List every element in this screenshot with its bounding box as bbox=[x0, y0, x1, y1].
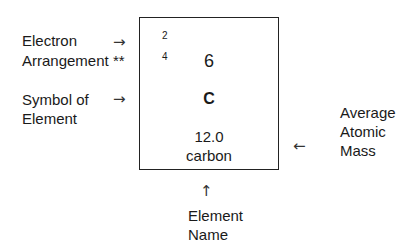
element-name: carbon bbox=[140, 146, 278, 165]
symbol-label-line2: Element bbox=[22, 109, 77, 128]
mass-label-line1: Average bbox=[340, 103, 396, 122]
right-arrow-icon: → bbox=[113, 33, 126, 52]
electron-label-line2: Arrangement ** bbox=[22, 51, 125, 70]
name-label-line2: Name bbox=[188, 225, 228, 244]
element-tile: 2 4 6 C 12.0 carbon bbox=[139, 17, 279, 170]
symbol-label-line1: Symbol of bbox=[22, 90, 89, 109]
right-arrow-icon: → bbox=[113, 90, 126, 109]
atomic-number: 6 bbox=[140, 51, 278, 72]
atomic-mass: 12.0 bbox=[140, 127, 278, 146]
mass-label-line2: Atomic bbox=[340, 122, 386, 141]
mass-label-line3: Mass bbox=[340, 141, 376, 160]
element-symbol: C bbox=[140, 90, 278, 108]
shell-1-electrons: 2 bbox=[162, 30, 168, 41]
left-arrow-icon: ← bbox=[293, 137, 306, 156]
up-arrow-icon: ↑ bbox=[200, 182, 213, 201]
name-label-line1: Element bbox=[188, 206, 243, 225]
electron-label-line1: Electron bbox=[22, 31, 77, 50]
